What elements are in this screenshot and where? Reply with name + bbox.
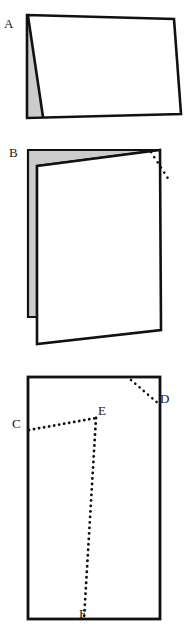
figure-label-a: A [4, 17, 13, 30]
panel-b-group [28, 150, 169, 344]
figure-label-d: D [160, 392, 169, 405]
paper-folding-figure [0, 0, 186, 627]
figure-label-f: F [79, 607, 86, 620]
figure-stage [0, 0, 186, 627]
panel-a-outline [27, 15, 181, 118]
figure-label-e: E [98, 404, 106, 417]
panel-b-front-outline [37, 150, 161, 344]
figure-label-c: C [12, 417, 21, 430]
figure-label-b: B [9, 146, 18, 159]
panel-c-outline [28, 377, 160, 619]
panel-a-group [27, 15, 181, 118]
panel-c-group [28, 377, 160, 619]
